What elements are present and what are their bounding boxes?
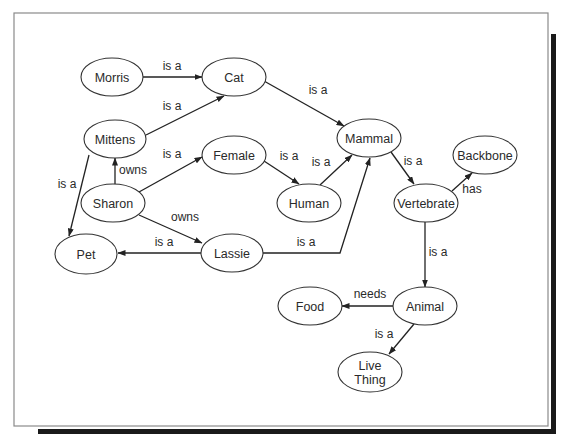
node-mittens: Mittens (84, 120, 146, 158)
edge-label: owns (119, 163, 147, 177)
edge-label: is a (155, 235, 174, 249)
node-label: Live (359, 359, 382, 373)
edge-label: is a (309, 83, 328, 97)
edge-label: is a (163, 147, 182, 161)
node-cat: Cat (202, 58, 266, 96)
node-label: Human (289, 197, 329, 211)
node-label: Sharon (93, 197, 133, 211)
node-lassie: Lassie (201, 234, 263, 272)
node-mammal: Mammal (337, 119, 401, 157)
node-label: Animal (406, 300, 444, 314)
node-live-thing: LiveThing (338, 352, 402, 392)
node-label: Female (213, 149, 255, 163)
edge-label: has (462, 182, 481, 196)
node-label: Morris (95, 71, 130, 85)
edge-label: is a (297, 235, 316, 249)
node-label: Mittens (95, 133, 135, 147)
node-label: Backbone (457, 149, 513, 163)
edge-label: is a (163, 59, 182, 73)
edge-label: is a (404, 154, 423, 168)
edge-label: needs (354, 287, 387, 301)
edge-label: is a (429, 245, 448, 259)
edge-label: is a (58, 177, 77, 191)
node-backbone: Backbone (453, 136, 517, 174)
edge-label: is a (375, 327, 394, 341)
node-human: Human (277, 184, 341, 222)
node-sharon: Sharon (81, 184, 145, 222)
diagram-canvas: is ais ais aownsis ais ais ais aownsis a… (0, 0, 565, 441)
node-label: Vertebrate (397, 197, 455, 211)
node-food: Food (278, 287, 342, 325)
node-label: Food (296, 300, 325, 314)
node-label: Mammal (345, 132, 393, 146)
semantic-network-diagram: is ais ais aownsis ais ais ais aownsis a… (0, 0, 565, 441)
node-morris: Morris (81, 58, 143, 96)
edge-label: owns (171, 210, 199, 224)
node-label: Cat (224, 71, 244, 85)
node-animal: Animal (393, 287, 457, 325)
edge-label: is a (163, 99, 182, 113)
node-label: Lassie (214, 247, 250, 261)
node-label: Thing (354, 373, 385, 387)
edge-label: is a (312, 155, 331, 169)
edge-label: is a (280, 149, 299, 163)
node-vertebrate: Vertebrate (394, 184, 458, 222)
node-label: Pet (77, 248, 96, 262)
node-pet: Pet (55, 234, 117, 274)
frame-shadow-right (551, 34, 556, 434)
node-female: Female (202, 136, 266, 174)
frame-shadow-bottom (38, 429, 552, 434)
